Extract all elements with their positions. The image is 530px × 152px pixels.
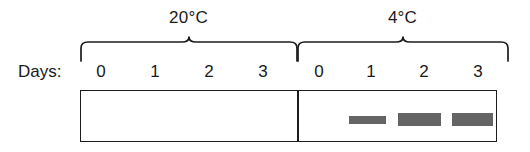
day-tick-20c-0: 0 [90,62,112,82]
day-tick-20c-1: 1 [144,62,166,82]
day-tick-4c-0: 0 [308,62,330,82]
temperature-label-20c: 20°C [80,8,297,28]
band-4c-day3 [452,113,493,126]
band-4c-day1 [349,116,386,124]
brace-20c [81,37,297,61]
days-axis-label: Days: [18,62,61,82]
day-tick-20c-3: 3 [252,62,274,82]
day-tick-4c-2: 2 [413,62,435,82]
gel-panel-divider [297,91,299,141]
day-tick-20c-2: 2 [198,62,220,82]
band-4c-day2 [398,113,441,126]
day-tick-4c-1: 1 [360,62,382,82]
day-tick-4c-3: 3 [467,62,489,82]
brace-4c [298,37,508,61]
gel-panel [80,90,497,142]
temperature-label-4c: 4°C [297,8,508,28]
gel-figure: 20°C 4°C Days: 0 1 2 3 0 1 2 3 [0,0,530,152]
